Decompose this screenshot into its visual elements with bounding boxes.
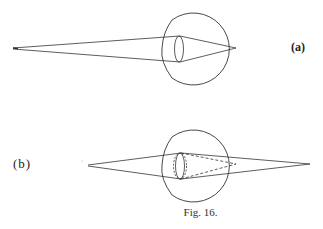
panel-b (82, 130, 311, 202)
lens-b (176, 153, 185, 179)
panel-a (13, 13, 236, 85)
panel-label-b: (b) (13, 156, 31, 172)
lens-a (175, 36, 184, 62)
ray-b-upper-out (181, 153, 310, 164)
eyeball-b (162, 130, 230, 202)
ray-a-lower-in (13, 49, 180, 62)
diagram-canvas (0, 0, 323, 229)
ray-b-lower-out (181, 164, 310, 179)
ray-a-upper-in (13, 36, 180, 48)
panel-label-a: (a) (291, 40, 305, 55)
ray-b-upper-in (88, 153, 181, 165)
figure-caption: Fig. 16. (0, 206, 323, 218)
ray-b-lower-in (88, 166, 181, 179)
eyeball-a (162, 13, 230, 85)
